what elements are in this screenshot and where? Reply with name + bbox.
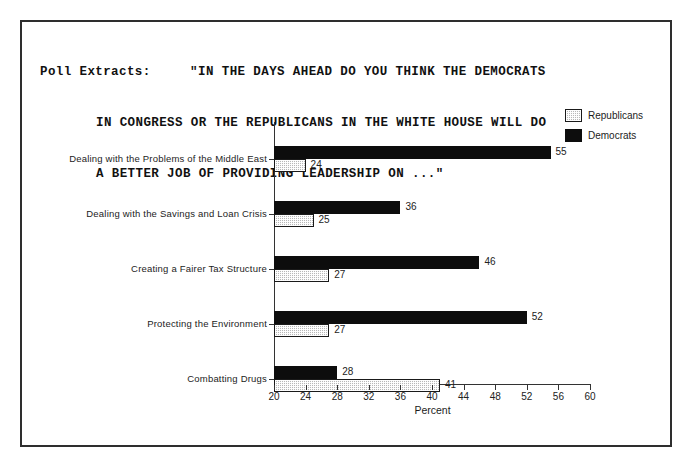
bar-row: 24 [274, 159, 590, 172]
bar-value-label: 28 [342, 365, 353, 379]
category-label: Creating a Fairer Tax Structure [37, 263, 274, 274]
x-axis-tick [558, 385, 559, 390]
bar-value-label: 27 [334, 323, 345, 337]
x-axis-tick [337, 385, 338, 390]
bar-value-label: 52 [532, 310, 543, 324]
bar-value-label: 24 [311, 158, 322, 172]
x-axis-tick-label: 48 [490, 391, 501, 402]
bar-value-label: 25 [319, 213, 330, 227]
x-axis-tick-label: 28 [332, 391, 343, 402]
legend-swatch-republicans-icon [565, 109, 582, 122]
bar-republicans[interactable] [274, 324, 329, 337]
x-axis-tick-label: 24 [300, 391, 311, 402]
x-axis-tick-label: 36 [395, 391, 406, 402]
chart-title-line-1: Poll Extracts: "IN THE DAYS AHEAD DO YOU… [40, 64, 650, 81]
x-axis-tick [590, 385, 591, 390]
x-axis-tick-label: 44 [458, 391, 469, 402]
poll-chart-frame: Poll Extracts: "IN THE DAYS AHEAD DO YOU… [20, 20, 672, 447]
x-axis-tick-label: 56 [553, 391, 564, 402]
x-axis-tick-label: 40 [426, 391, 437, 402]
legend-label-democrats: Democrats [588, 130, 636, 141]
x-axis-tick [400, 385, 401, 390]
x-axis-tick [432, 385, 433, 390]
x-axis-label: Percent [274, 404, 591, 416]
bar-democrats[interactable] [274, 311, 527, 324]
plot-area: Dealing with the Problems of the Middle … [274, 122, 590, 384]
bar-value-label: 36 [405, 200, 416, 214]
category-label: Protecting the Environment [37, 318, 274, 329]
x-axis-tick-label: 20 [268, 391, 279, 402]
bar-democrats[interactable] [274, 201, 400, 214]
bar-value-label: 46 [484, 255, 495, 269]
bar-republicans[interactable] [274, 214, 314, 227]
x-axis-tick [306, 385, 307, 390]
category-label: Combatting Drugs [37, 373, 274, 384]
bar-row: 27 [274, 324, 590, 337]
bar-value-label: 27 [334, 268, 345, 282]
bar-democrats[interactable] [274, 366, 337, 379]
legend-label-republicans: Republicans [588, 110, 643, 121]
x-axis-tick [369, 385, 370, 390]
x-axis-tick-label: 32 [363, 391, 374, 402]
bar-row: 46 [274, 256, 590, 269]
bar-republicans[interactable] [274, 269, 329, 282]
x-axis-tick [274, 385, 275, 390]
x-axis-tick [464, 385, 465, 390]
x-axis-tick-label: 52 [521, 391, 532, 402]
bar-row: 27 [274, 269, 590, 282]
bar-republicans[interactable] [274, 159, 306, 172]
bar-row: 25 [274, 214, 590, 227]
bar-row: 52 [274, 311, 590, 324]
bar-value-label: 55 [556, 145, 567, 159]
category-label: Dealing with the Savings and Loan Crisis [37, 208, 274, 219]
bar-democrats[interactable] [274, 256, 479, 269]
x-axis-tick [527, 385, 528, 390]
x-axis-tick [495, 385, 496, 390]
x-axis-tick-label: 60 [584, 391, 595, 402]
category-label: Dealing with the Problems of the Middle … [37, 153, 274, 164]
bar-row: 28 [274, 366, 590, 379]
